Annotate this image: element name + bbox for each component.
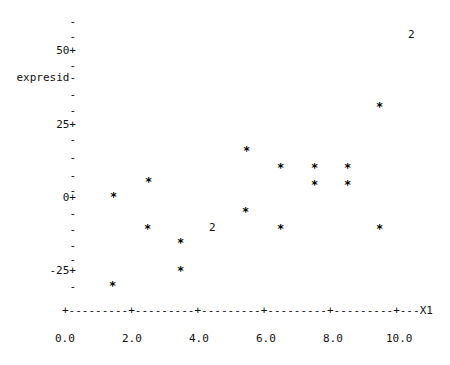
x-tick-label-0: 0.0 — [55, 333, 75, 344]
y-tick-minor: - — [0, 224, 76, 235]
x-tick-label-10: 10.0 — [386, 333, 413, 344]
y-tick-minor: - — [0, 105, 76, 116]
data-point: * — [243, 145, 250, 157]
x-tick-label-6: 6.0 — [256, 333, 276, 344]
y-tick-label-0: 0+ — [0, 192, 76, 203]
y-tick-label-25: 25+ — [0, 119, 76, 130]
y-tick-minor: - — [0, 152, 76, 163]
y-tick-minor: - — [0, 281, 76, 292]
x-tick-label-4: 4.0 — [189, 333, 209, 344]
y-tick-minor: - — [0, 170, 76, 181]
data-point: * — [145, 176, 152, 188]
data-point-overplot: 2 — [408, 29, 415, 40]
y-tick-minor: - — [0, 208, 76, 219]
data-point: * — [311, 179, 318, 191]
x-tick-label-8: 8.0 — [323, 333, 343, 344]
data-point: * — [177, 237, 184, 249]
data-point: * — [110, 191, 117, 203]
data-point: * — [311, 162, 318, 174]
data-point: * — [376, 223, 383, 235]
plot-area: - - 50+ - expresid- - - 25+ - - - - 0+ -… — [0, 0, 450, 365]
y-tick-minor: - — [0, 134, 76, 145]
data-point: * — [344, 162, 351, 174]
data-point: * — [376, 101, 383, 113]
y-tick-minor: - — [0, 240, 76, 251]
character-plot-screen: - - 50+ - expresid- - - 25+ - - - - 0+ -… — [0, 0, 450, 365]
y-tick-label-50: 50+ — [0, 45, 76, 56]
data-point: * — [277, 162, 284, 174]
y-tick-label-minus25: -25+ — [0, 265, 76, 276]
data-point: * — [242, 206, 249, 218]
data-point: * — [277, 223, 284, 235]
data-point: * — [109, 280, 116, 292]
data-point-overplot: 2 — [209, 222, 216, 233]
y-axis-title: expresid- — [0, 72, 76, 83]
data-point: * — [177, 265, 184, 277]
y-tick-minor: - — [0, 89, 76, 100]
y-tick-minor: - — [0, 60, 76, 71]
data-point: * — [344, 179, 351, 191]
y-tick-minor: - — [0, 16, 76, 27]
data-point: * — [144, 223, 151, 235]
x-axis-line: +---------+---------+---------+---------… — [62, 305, 433, 316]
x-tick-label-2: 2.0 — [122, 333, 142, 344]
y-tick-minor: - — [0, 31, 76, 42]
